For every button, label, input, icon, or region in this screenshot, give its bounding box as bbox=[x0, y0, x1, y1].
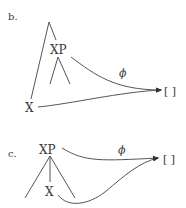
syntax-tree-diagram: b. XP X ϕ [ ] c. XP X ϕ [ ] bbox=[0, 0, 186, 208]
node-xp: XP bbox=[50, 43, 67, 57]
node-xp: XP bbox=[39, 143, 56, 157]
branch-apex-to-xp bbox=[49, 22, 56, 40]
phi-label: ϕ bbox=[119, 67, 127, 80]
arrow-x bbox=[38, 90, 161, 107]
panel-c-label: c. bbox=[8, 148, 17, 159]
empty-target: [ ] bbox=[163, 153, 175, 166]
panel-b: b. XP X ϕ [ ] bbox=[8, 11, 176, 115]
branch-xp-left bbox=[50, 57, 58, 84]
phi-label: ϕ bbox=[118, 144, 126, 157]
branch-xp-right bbox=[50, 156, 75, 198]
panel-b-label: b. bbox=[8, 11, 18, 22]
node-x: X bbox=[45, 185, 54, 199]
panel-c: c. XP X ϕ [ ] bbox=[8, 143, 175, 203]
branch-apex-to-x bbox=[31, 22, 49, 99]
phi-arrow-xp bbox=[62, 148, 158, 160]
branch-xp-right bbox=[58, 57, 70, 84]
empty-target: [ ] bbox=[164, 85, 176, 98]
node-x: X bbox=[25, 101, 34, 115]
arrow-x bbox=[58, 158, 158, 203]
phi-arrow-xp bbox=[71, 57, 161, 90]
